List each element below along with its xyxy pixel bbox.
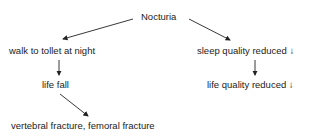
arrow-root-to-right xyxy=(189,19,230,40)
node-nocturia: Nocturia xyxy=(141,11,176,23)
node-fractures: vertebral fracture, femoral fracture xyxy=(11,120,155,132)
arrow-left-2-to-3 xyxy=(60,94,88,116)
arrow-root-to-left xyxy=(63,19,133,39)
node-life-quality: life quality reduced ↓ xyxy=(207,79,294,91)
node-walk-to-toilet: walk to tollet at night xyxy=(9,45,95,57)
node-life-fall: life fall xyxy=(42,79,69,91)
node-sleep-quality: sleep quality reduced ↓ xyxy=(197,45,294,57)
